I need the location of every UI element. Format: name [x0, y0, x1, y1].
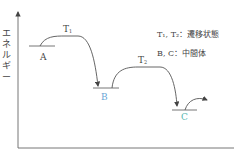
- label-a: A: [40, 52, 47, 62]
- label-c: C: [181, 112, 188, 122]
- curve-c-out: [185, 98, 207, 110]
- legend-intermediates: B, C：中間体: [157, 47, 206, 58]
- energy-diagram: エネルギー A B C T1 T2 T₁, T₂：遷移状態 B, C：中間体: [0, 0, 234, 157]
- label-t2: T2: [138, 55, 147, 67]
- y-axis-label: エネルギー: [0, 28, 12, 83]
- label-b: B: [101, 92, 108, 102]
- diagram-canvas: [0, 0, 234, 157]
- curve-a-to-b: [40, 36, 98, 86]
- curve-b-to-c: [112, 67, 177, 106]
- legend-transition-states: T₁, T₂：遷移状態: [157, 28, 219, 39]
- label-t1: T1: [63, 24, 72, 36]
